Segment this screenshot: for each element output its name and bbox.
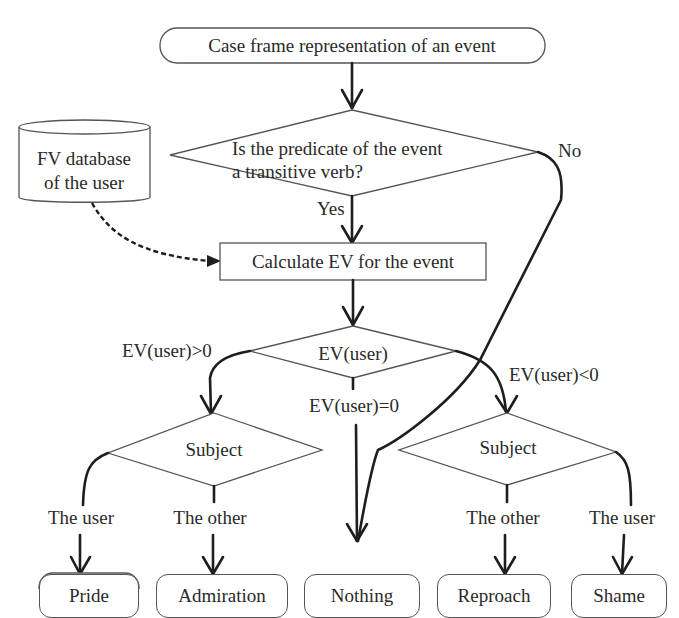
outcome-pride-label: Pride [69,585,109,607]
arrow-to-shame [613,535,632,574]
decision-transitive-verb: Is the predicate of the event a transiti… [170,110,538,196]
start-label: Case frame representation of an event [208,35,496,56]
arrow-yes-to-calc [342,196,362,243]
subject-left-label: Subject [186,439,244,460]
outcome-shame: Shame [571,574,667,618]
ev-negative-label: EV(user)<0 [509,364,599,386]
outcome-admiration: Admiration [156,574,288,618]
subject-right-label: Subject [480,437,538,458]
arrow-to-pride [71,535,90,574]
start-terminal: Case frame representation of an event [160,28,545,63]
outcome-reproach-label: Reproach [458,585,531,607]
database-line2: of the user [44,172,125,193]
outcome-reproach: Reproach [437,574,551,618]
arrow-left-user-branch [83,453,108,505]
decision-subject-left: Subject [108,413,322,486]
ev-zero-label: EV(user)=0 [309,395,399,417]
decision-ev-label: EV(user) [318,343,388,365]
dashed-arrow-db-to-calc [92,203,221,267]
database-line1: FV database [37,148,131,169]
outcome-admiration-label: Admiration [178,585,266,607]
fv-database-cylinder: FV database of the user [19,120,150,202]
right-branch-other-label: The other [466,507,540,528]
arrow-start-to-decision [342,63,362,108]
outcome-nothing: Nothing [304,574,420,618]
outcome-pride: Pride [39,574,139,618]
left-branch-other-label: The other [173,507,247,528]
outcome-nothing-label: Nothing [331,585,393,607]
arrow-right-user-branch [616,452,631,505]
outcome-shame-label: Shame [593,585,645,607]
no-label: No [558,140,581,161]
arrow-calc-to-ev [343,280,363,325]
decision-ev-user: EV(user) [250,326,456,378]
process-calculate-ev: Calculate EV for the event [220,243,486,280]
decision-transitive-line2: a transitive verb? [232,161,363,182]
arrow-to-admiration [203,535,223,574]
calc-label: Calculate EV for the event [252,251,455,272]
ev-positive-label: EV(user)>0 [122,340,212,362]
decision-subject-right: Subject [399,413,616,485]
yes-label: Yes [317,198,345,219]
left-branch-user-label: The user [48,507,115,528]
arrow-to-reproach [495,535,515,574]
decision-transitive-line1: Is the predicate of the event [232,138,443,159]
right-branch-user-label: The user [589,507,656,528]
